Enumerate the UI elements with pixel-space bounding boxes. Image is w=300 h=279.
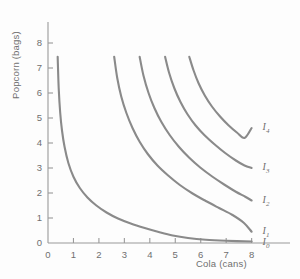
y-tick-label: 6 <box>28 88 42 98</box>
y-tick-label: 0 <box>28 238 42 248</box>
y-tick-label: 1 <box>28 213 42 223</box>
indifference-curve-chart: Popcorn (bags) Cola (cans) 012345678 012… <box>0 0 300 279</box>
x-tick-label: 0 <box>41 250 55 260</box>
y-axis-label: Popcorn (bags) <box>5 15 23 115</box>
curve-label-i1: I1 <box>263 226 270 239</box>
x-tick-label: 5 <box>168 250 182 260</box>
y-tick-label: 8 <box>28 38 42 48</box>
curve-label-i4: I4 <box>263 122 270 135</box>
indifference-curve-i1 <box>114 57 251 232</box>
y-tick-label: 4 <box>28 138 42 148</box>
plot-area <box>0 0 300 279</box>
indifference-curve-i4 <box>189 57 251 138</box>
y-tick-label: 7 <box>28 63 42 73</box>
y-tick-label: 3 <box>28 163 42 173</box>
indifference-curve-i3 <box>165 57 252 168</box>
x-tick-label: 8 <box>245 250 259 260</box>
x-tick-label: 4 <box>143 250 157 260</box>
curves <box>58 57 252 242</box>
y-axis-label-text: Popcorn (bags) <box>10 31 21 99</box>
x-tick-label: 6 <box>194 250 208 260</box>
y-tick-label: 5 <box>28 113 42 123</box>
x-axis-label-text: Cola (cans) <box>196 258 247 269</box>
x-tick-label: 2 <box>92 250 106 260</box>
curve-label-i2: I2 <box>263 195 270 208</box>
curve-label-i3: I3 <box>263 162 270 175</box>
x-tick-label: 3 <box>117 250 131 260</box>
indifference-curve-i0 <box>58 57 252 242</box>
x-tick-label: 7 <box>219 250 233 260</box>
x-tick-label: 1 <box>66 250 80 260</box>
y-tick-label: 2 <box>28 188 42 198</box>
